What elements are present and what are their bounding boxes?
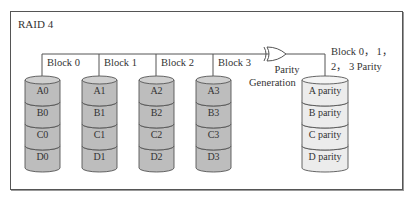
- data-disk-1-segment-0: A1: [82, 85, 117, 96]
- parity-disk-segment-3: D parity: [302, 151, 348, 162]
- data-disk-0-segment-0: A0: [25, 85, 60, 96]
- block-label-3: Block 3: [218, 57, 251, 68]
- parity-block-label-2: 2， 3 Parity: [331, 58, 382, 73]
- data-disk-2-segment-2: C2: [139, 129, 174, 140]
- data-disk-0-segment-3: D0: [25, 151, 60, 162]
- data-disk-3-segment-1: B3: [196, 107, 231, 118]
- data-disk-3-segment-2: C3: [196, 129, 231, 140]
- data-disk-2-segment-1: B2: [139, 107, 174, 118]
- parity-gate-label-2: Generation: [249, 77, 296, 88]
- parity-gate-label-1: Parity: [263, 64, 311, 75]
- data-disk-2-segment-3: D2: [139, 151, 174, 162]
- data-disk-0-segment-2: C0: [25, 129, 60, 140]
- data-disk-3-segment-3: D3: [196, 151, 231, 162]
- parity-disk-segment-2: C parity: [302, 129, 348, 140]
- data-disk-1-segment-2: C1: [82, 129, 117, 140]
- data-disk-0-segment-1: B0: [25, 107, 60, 118]
- data-disk-1-segment-1: B1: [82, 107, 117, 118]
- block-label-0: Block 0: [47, 57, 80, 68]
- block-label-1: Block 1: [104, 57, 137, 68]
- data-disk-3-segment-0: A3: [196, 85, 231, 96]
- raid-diagram: [0, 0, 408, 200]
- block-label-2: Block 2: [161, 57, 194, 68]
- data-disk-1-segment-3: D1: [82, 151, 117, 162]
- data-disk-2-segment-0: A2: [139, 85, 174, 96]
- parity-disk-segment-1: B parity: [302, 107, 348, 118]
- parity-block-label-1: Block 0， 1，: [331, 43, 392, 58]
- parity-disk-segment-0: A parity: [302, 85, 348, 96]
